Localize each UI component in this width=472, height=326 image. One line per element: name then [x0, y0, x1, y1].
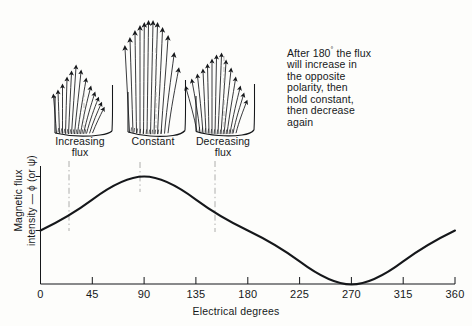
x-tick-label-135: 135	[179, 288, 213, 300]
label-increasing-line2: flux	[44, 147, 116, 158]
diagram-increasing-flux	[54, 67, 113, 136]
note-line-1: After 180° the flux	[287, 44, 427, 59]
label-decreasing-line2: flux	[185, 147, 261, 158]
x-tick-label-315: 315	[386, 288, 420, 300]
figure-canvas: After 180° the flux will increase in the…	[0, 0, 472, 326]
y-axis-title-line2: intensity — ϕ (or ψ)	[26, 138, 39, 264]
note-line-7: again	[287, 117, 427, 129]
x-tick-label-90: 90	[127, 288, 161, 300]
flux-lines-decreasing	[186, 55, 247, 134]
y-axis-title-line1: Magnetic flux	[13, 138, 26, 264]
x-tick-label-225: 225	[283, 288, 317, 300]
pole-hatching-constant	[131, 127, 162, 134]
x-axis-title: Electrical degrees	[0, 305, 472, 317]
flux-intensity-curve	[41, 177, 456, 285]
flux-lines-constant	[125, 23, 179, 134]
x-tick-label-45: 45	[75, 288, 109, 300]
label-constant-flux: Constant	[117, 136, 189, 147]
x-tick-label-180: 180	[231, 288, 265, 300]
flux-lines-increasing	[54, 67, 104, 134]
x-tick-label-270: 270	[334, 288, 368, 300]
diagram-decreasing-flux	[186, 55, 255, 136]
plot-axes	[36, 166, 456, 284]
after-180-note: After 180° the flux will increase in the…	[287, 44, 427, 129]
label-constant-line1: Constant	[117, 136, 189, 147]
label-increasing-flux: Increasing flux	[44, 136, 116, 159]
x-tick-label-360: 360	[438, 288, 472, 300]
label-decreasing-flux: Decreasing flux	[185, 136, 261, 159]
x-tick-label-0: 0	[24, 288, 58, 300]
x-axis-ticks	[41, 277, 456, 284]
y-axis-title: Magnetic flux intensity — ϕ (or ψ)	[13, 138, 38, 264]
diagram-constant-flux	[125, 23, 186, 136]
note-line-2: will increase in	[287, 59, 427, 71]
